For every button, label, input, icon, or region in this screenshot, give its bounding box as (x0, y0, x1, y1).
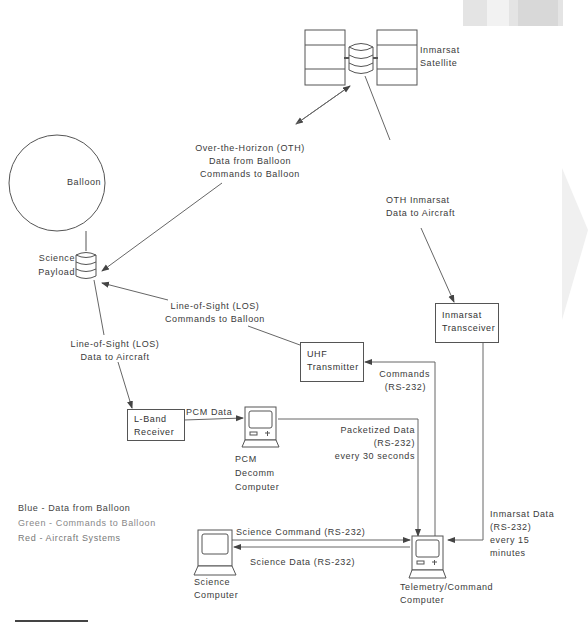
uhf-transmitter-box: UHF Transmitter (300, 342, 364, 382)
los-commands-line (248, 326, 300, 345)
commands-label-1: Commands (370, 368, 430, 381)
science-computer-label-2: Computer (194, 589, 238, 602)
oth-inmarsat-label-2: Data to Aircraft (386, 207, 455, 220)
satellite-label-2: Satellite (420, 57, 457, 70)
los-commands-arrow (102, 283, 168, 300)
los-data-line (94, 280, 104, 335)
science-data-label: Science Data (RS-232) (250, 556, 355, 569)
uhf-label-2: Transmitter (307, 361, 363, 374)
science-command-label: Science Command (RS-232) (236, 526, 365, 539)
telemetry-computer-icon (409, 536, 446, 578)
pcm-computer-label-2: Decomm (235, 467, 275, 480)
oth-arrow-up (296, 86, 350, 124)
oth-inmarsat-arrow (421, 228, 454, 302)
lband-receiver-box: L-Band Receiver (127, 409, 185, 441)
lband-label-1: L-Band (134, 413, 184, 426)
pcm-computer-label-1: PCM (235, 453, 257, 466)
los-commands-label-2: Commands to Balloon (160, 313, 270, 326)
payload-label-1: Science (20, 252, 75, 265)
oth-arrow-to-payload (102, 183, 222, 271)
lband-label-2: Receiver (134, 426, 184, 439)
packetized-label-1: Packetized Data (320, 424, 415, 437)
pcm-computer-icon (242, 407, 279, 447)
commands-label-2: (RS-232) (370, 381, 426, 394)
los-data-arrow (118, 362, 132, 408)
balloon-label: Balloon (67, 176, 101, 189)
legend-blue: Blue - Data from Balloon (18, 502, 130, 515)
los-data-label-2: Data to Aircraft (60, 351, 170, 364)
transceiver-label-1: Inmarsat (442, 309, 498, 322)
inmarsat-data-label-2: (RS-232) (490, 521, 531, 534)
background-chevron (562, 168, 588, 320)
science-computer-icon (194, 530, 236, 575)
payload-label-2: Payload (20, 266, 75, 279)
packetized-label-3: every 30 seconds (320, 450, 415, 463)
inmarsat-data-label-4: minutes (490, 547, 526, 560)
oth-inmarsat-line (365, 76, 390, 140)
payload-icon (76, 253, 96, 279)
telemetry-computer-label-1: Telemetry/Command (400, 581, 493, 594)
oth-label-2: Data from Balloon (180, 155, 320, 168)
satellite-icon (305, 30, 417, 85)
legend-red: Red - Aircraft Systems (18, 532, 121, 545)
los-data-label-1: Line-of-Sight (LOS) (60, 338, 170, 351)
science-computer-label-1: Science (194, 576, 230, 589)
inmarsat-data-label-3: every 15 (490, 534, 529, 547)
pcm-data-label: PCM Data (186, 406, 232, 419)
inmarsat-transceiver-box: Inmarsat Transceiver (435, 303, 499, 343)
uhf-label-1: UHF (307, 348, 363, 361)
pcm-computer-label-3: Computer (235, 481, 279, 494)
oth-label-3: Commands to Balloon (180, 168, 320, 181)
legend-green: Green - Commands to Balloon (18, 517, 156, 530)
inmarsat-data-label-1: Inmarsat Data (490, 508, 554, 521)
oth-label-1: Over-the-Horizon (OTH) (180, 142, 320, 155)
packetized-label-2: (RS-232) (320, 437, 415, 450)
satellite-label-1: Inmarsat (420, 44, 460, 57)
transceiver-label-2: Transceiver (442, 322, 498, 335)
oth-inmarsat-label-1: OTH Inmarsat (386, 194, 450, 207)
telemetry-computer-label-2: Computer (400, 594, 444, 607)
los-commands-label-1: Line-of-Sight (LOS) (160, 300, 270, 313)
inmarsat-data-line (448, 343, 483, 540)
